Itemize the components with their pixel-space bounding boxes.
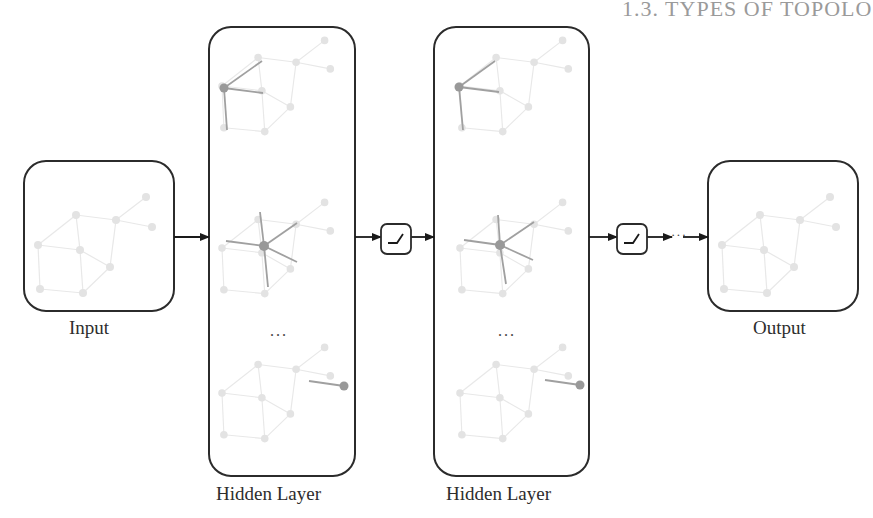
hidden-1-graph-bottom [218, 344, 348, 443]
hidden-layer-1-label: Hidden Layer [216, 483, 321, 505]
hidden-1-ellipsis: ... [270, 322, 288, 340]
continuation-dots: ··· [671, 227, 687, 243]
relu-2-activation [617, 224, 647, 254]
hidden-2-ellipsis: ... [498, 322, 516, 340]
output-label: Output [753, 317, 806, 339]
gnn-architecture-diagram [0, 0, 873, 518]
input-label: Input [69, 317, 109, 339]
relu-1-activation [381, 224, 411, 254]
hidden-layer-2-label: Hidden Layer [446, 483, 551, 505]
output-box [708, 161, 858, 311]
hidden-2-graph-bottom [456, 344, 584, 443]
hidden-2-box [434, 27, 589, 476]
hidden-2-graph-middle [456, 199, 572, 298]
hidden-2-graph-top [455, 37, 573, 136]
input-graph [34, 193, 156, 297]
output-graph [718, 193, 840, 297]
hidden-1-graph-top [218, 37, 334, 136]
hidden-1-graph-middle [218, 199, 334, 298]
input-box [24, 161, 174, 311]
